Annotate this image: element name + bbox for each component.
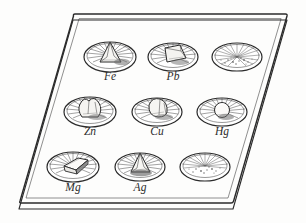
dish-label-ag: Ag	[133, 181, 147, 194]
dish-label-zn: Zn	[84, 125, 96, 137]
chemistry-specimen-tray-illustration: Fe Pb	[0, 0, 306, 223]
dish-label-mg: Mg	[64, 181, 81, 194]
dish-label-cu: Cu	[150, 125, 164, 137]
dish-label-hg: Hg	[214, 125, 229, 138]
dish-label-pb: Pb	[166, 70, 180, 82]
dish-label-fe: Fe	[103, 70, 116, 82]
illustration-canvas: Fe Pb	[0, 0, 306, 223]
dish-unlabelled-1	[212, 43, 262, 71]
dish-unlabelled-2	[180, 153, 230, 181]
